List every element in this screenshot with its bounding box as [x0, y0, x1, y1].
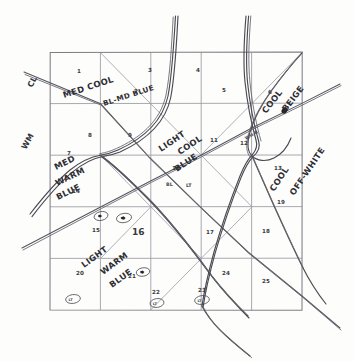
label-cool-off-white-line2: OFF-WHITE	[287, 145, 327, 197]
cell-number-16: 16	[132, 227, 145, 237]
cell-number-3: 3	[148, 67, 152, 73]
circled-mark-d: LT	[65, 294, 81, 305]
annotation-bl: BL	[166, 182, 173, 187]
axis-label-wm: WM	[20, 132, 36, 151]
label-cool-off-white-line1: COOL	[267, 165, 291, 193]
cell-number-24: 24	[222, 270, 230, 276]
cell-number-12: 12	[240, 140, 248, 146]
handdrawn-diagram: 1 2 3 4 5 6 7 8 9 10 11 12 13 14 15 16 1…	[0, 0, 355, 361]
cell-number-1: 1	[77, 68, 81, 74]
cell-number-17: 17	[206, 229, 214, 235]
label-light-cool-line3: BLUE	[173, 151, 200, 174]
cell-number-19: 19	[277, 199, 285, 205]
paper-sheet: 1 2 3 4 5 6 7 8 9 10 11 12 13 14 15 16 1…	[0, 0, 355, 361]
cell-number-4: 4	[196, 67, 200, 73]
cell-number-11: 11	[210, 137, 218, 143]
svg-text:LT: LT	[69, 298, 74, 302]
circled-mark-b	[116, 212, 133, 224]
cell-number-9: 9	[128, 132, 132, 138]
label-light-warm-blue: LIGHT WARM BLUE	[79, 244, 134, 290]
cell-number-22: 22	[152, 289, 160, 295]
svg-text:LT: LT	[197, 299, 202, 303]
cell-number-8: 8	[88, 132, 92, 138]
cell-number-25: 25	[262, 278, 270, 284]
label-med-warm-blue: MED WARM BLUE	[52, 153, 86, 202]
label-med-cool-blmd-blue: MED COOL BL-MD BLUE	[62, 74, 156, 108]
circled-mark-c	[136, 267, 151, 278]
label-med-cool-line1: MED COOL	[62, 74, 116, 100]
annotation-lt: LT	[186, 183, 192, 188]
pencil-straight-lines	[22, 72, 341, 330]
cell-number-18: 18	[262, 228, 270, 234]
label-cool-off-white: COOL OFF-WHITE	[267, 145, 327, 197]
cell-number-5: 5	[222, 87, 226, 93]
svg-text:LT: LT	[153, 302, 158, 306]
cell-number-23: 23	[198, 287, 206, 293]
axis-labels: CL WM	[20, 75, 39, 151]
cell-number-15: 15	[92, 227, 100, 233]
cell-number-20: 20	[76, 270, 84, 276]
label-med-cool-line2: BL-MD BLUE	[102, 83, 155, 108]
